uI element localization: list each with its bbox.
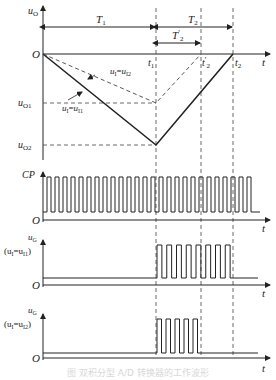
cp-origin-label: O [32,214,40,226]
ug2-axis-label: uG [28,305,38,316]
T1-label: T1 [96,13,106,27]
ug2-pulse-train [43,319,258,353]
T2-label: T2 [188,13,198,27]
gate-ui2-panel: uG (uI=uI2) O t [4,305,270,374]
uo-axis-label: uO [28,5,38,18]
ui2-leader-arrow [88,75,95,79]
cp-pulse-train [43,177,260,212]
timing-diagram-svg: uO O t uO1 uO2 t1 t′2 t2 T1 T2 T′2 uI=uI… [0,0,276,380]
figure-caption: 图 双积分型 A/D 转换器的工作波形 [0,366,276,379]
uo2-label: uO2 [18,139,32,152]
uo1-label: uO1 [18,97,32,110]
ui2-curve-label: uI=uI2 [110,66,131,77]
cp-axis-label: CP [22,169,35,180]
ug1-origin-label: O [32,279,40,291]
ug1-pulse-train [43,245,258,278]
ui1-curve-label: uI=uI1 [62,103,83,114]
t2-label: t2 [235,57,242,70]
ug1-t-label: t [262,287,266,299]
integrator-panel: uO O t uO1 uO2 t1 t′2 t2 T1 T2 T′2 uI=uI… [18,5,270,358]
t2prime-label: t′2 [202,56,211,70]
t-axis-label: t [262,56,266,68]
gate-ui1-panel: uG (uI=uI1) O t [4,232,270,299]
cp-t-label: t [262,222,266,234]
ug1-condition-label: (uI=uI1) [4,246,31,257]
t1-label: t1 [148,57,155,70]
ug2-condition-label: (uI=uI2) [4,319,31,330]
ug1-axis-label: uG [28,232,38,243]
origin-label: O [32,48,40,60]
ui1-leader-arrow [68,92,82,100]
ug2-origin-label: O [32,352,40,364]
ui2-ramp-curve [43,54,201,103]
waveform-diagram: uO O t uO1 uO2 t1 t′2 t2 T1 T2 T′2 uI=uI… [0,0,276,380]
T2prime-label: T′2 [172,29,184,43]
